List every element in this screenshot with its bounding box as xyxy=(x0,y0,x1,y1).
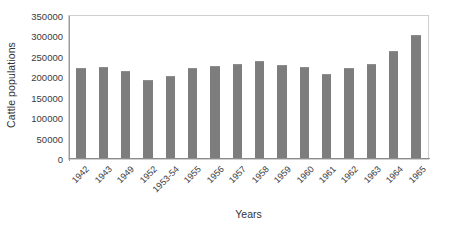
bar-slot xyxy=(92,16,114,158)
x-axis-title: Years xyxy=(68,208,429,220)
bar-slot xyxy=(249,16,271,158)
bar-slot xyxy=(382,16,404,158)
bar-slot xyxy=(137,16,159,158)
plot-area xyxy=(68,15,429,160)
bar[interactable] xyxy=(210,66,219,158)
bars-layer xyxy=(70,16,427,158)
bar[interactable] xyxy=(411,35,420,158)
bar[interactable] xyxy=(143,80,152,158)
x-axis-line xyxy=(69,158,430,159)
bar[interactable] xyxy=(121,71,130,158)
bar-slot xyxy=(338,16,360,158)
bar[interactable] xyxy=(300,67,309,158)
x-axis-tick-labels: 19421943194919521953-5419551956195719581… xyxy=(68,161,429,206)
bar-slot xyxy=(226,16,248,158)
y-axis-tick-label: 50000 xyxy=(37,133,63,144)
y-axis-title: Cattle populations xyxy=(0,0,22,170)
bar[interactable] xyxy=(233,64,242,158)
bar[interactable] xyxy=(367,64,376,158)
y-axis-tick-labels: 0500001000001500002000002500003000003500… xyxy=(22,16,67,159)
bar[interactable] xyxy=(255,61,264,158)
bar-slot xyxy=(70,16,92,158)
bar-slot xyxy=(405,16,427,158)
y-axis-tick-label: 350000 xyxy=(31,11,63,22)
bar[interactable] xyxy=(344,68,353,158)
y-axis-title-label: Cattle populations xyxy=(5,42,17,128)
bar[interactable] xyxy=(389,51,398,158)
bar-slot xyxy=(360,16,382,158)
y-axis-tick-label: 250000 xyxy=(31,51,63,62)
bar-slot xyxy=(159,16,181,158)
bar-slot xyxy=(182,16,204,158)
bar-slot xyxy=(204,16,226,158)
y-axis-tick-label: 150000 xyxy=(31,92,63,103)
y-axis-tick-label: 0 xyxy=(58,154,63,165)
bar[interactable] xyxy=(76,68,85,158)
bar[interactable] xyxy=(277,65,286,158)
bar-slot xyxy=(271,16,293,158)
y-axis-tick-label: 100000 xyxy=(31,113,63,124)
bar[interactable] xyxy=(188,68,197,158)
bar[interactable] xyxy=(322,74,331,158)
bar[interactable] xyxy=(99,67,108,158)
bar-slot xyxy=(315,16,337,158)
y-axis-tick-label: 300000 xyxy=(31,31,63,42)
bar-chart-figure: Cattle populations 050000100000150000200… xyxy=(0,0,449,236)
bar[interactable] xyxy=(166,76,175,158)
bar-slot xyxy=(293,16,315,158)
bar-slot xyxy=(115,16,137,158)
y-axis-tick-label: 200000 xyxy=(31,72,63,83)
